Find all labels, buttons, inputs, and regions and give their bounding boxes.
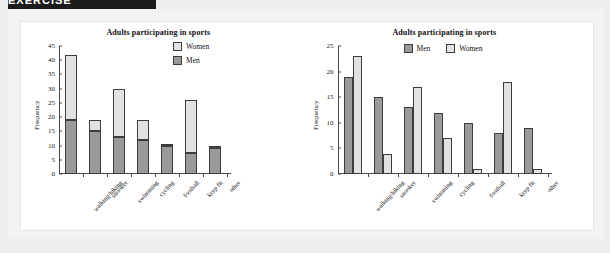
- bar-segment-women[interactable]: [185, 100, 197, 153]
- page-root: EXERCISE Adults participating in sports …: [0, 0, 610, 253]
- y-tick-label: 10: [327, 119, 338, 127]
- bar-women[interactable]: [473, 169, 482, 174]
- bar-segment-men[interactable]: [209, 148, 221, 174]
- bar-men[interactable]: [434, 113, 443, 174]
- y-tick-label: 0: [330, 170, 338, 178]
- x-tick-mark: [488, 174, 489, 177]
- x-tick-label: other: [227, 179, 241, 194]
- bar-segment-women[interactable]: [65, 55, 77, 120]
- legend-label: Women: [186, 42, 209, 51]
- x-tick-mark: [131, 174, 132, 177]
- charts-container: Adults participating in sports Frequency…: [20, 21, 594, 231]
- y-tick-label: 0: [52, 170, 60, 178]
- legend-right: MenWomen: [404, 44, 483, 53]
- y-tick-mark: [338, 174, 341, 175]
- bar-stacked[interactable]: [65, 55, 77, 174]
- legend-swatch-women: [446, 44, 455, 53]
- y-tick-mark: [59, 145, 62, 146]
- legend-swatch-men: [404, 44, 413, 53]
- chart-grouped: Adults participating in sports Frequency…: [296, 22, 593, 230]
- y-tick-label: 40: [48, 56, 59, 64]
- bar-women[interactable]: [443, 138, 452, 174]
- section-banner: EXERCISE: [8, 0, 156, 9]
- x-tick-label: keep fit: [517, 179, 536, 198]
- y-tick-mark: [338, 148, 341, 149]
- x-tick-label: cycling: [457, 179, 475, 198]
- y-tick-mark: [59, 74, 62, 75]
- bar-segment-men[interactable]: [113, 137, 125, 174]
- y-tick-mark: [59, 88, 62, 89]
- y-tick-label: 25: [327, 42, 338, 50]
- y-tick-mark: [59, 46, 62, 47]
- bar-segment-men[interactable]: [137, 140, 149, 174]
- bar-men[interactable]: [464, 123, 473, 174]
- x-tick-label: swimming: [429, 179, 453, 204]
- y-tick-label: 10: [48, 142, 59, 150]
- bar-men[interactable]: [524, 128, 533, 174]
- x-tick-mark: [179, 174, 180, 177]
- y-tick-mark: [59, 60, 62, 61]
- y-tick-label: 20: [327, 68, 338, 76]
- chart-title-right: Adults participating in sports: [296, 28, 593, 37]
- x-tick-label: football: [487, 179, 506, 199]
- y-axis-label-right: Frequency: [312, 100, 320, 130]
- x-tick-mark: [458, 174, 459, 177]
- bar-men[interactable]: [494, 133, 503, 174]
- bar-segment-women[interactable]: [113, 89, 125, 137]
- y-tick-label: 30: [48, 85, 59, 93]
- bar-segment-men[interactable]: [161, 146, 173, 174]
- x-tick-label: other: [545, 179, 559, 194]
- legend-item-men[interactable]: Men: [404, 44, 431, 53]
- bar-stacked[interactable]: [137, 120, 149, 174]
- x-tick-mark: [428, 174, 429, 177]
- bar-men[interactable]: [344, 77, 353, 174]
- bar-segment-men[interactable]: [65, 120, 77, 174]
- legend-swatch-men: [173, 56, 182, 65]
- bar-women[interactable]: [353, 56, 362, 174]
- y-tick-mark: [338, 97, 341, 98]
- bar-men[interactable]: [374, 97, 383, 174]
- bar-women[interactable]: [503, 82, 512, 174]
- x-tick-mark: [203, 174, 204, 177]
- chart-title-left: Adults participating in sports: [21, 28, 296, 37]
- legend-item-women[interactable]: Women: [173, 42, 209, 51]
- x-tick-mark: [368, 174, 369, 177]
- plot-area-right: 0510152025walking/hikingsnookerswimmingc…: [338, 46, 548, 174]
- bar-stacked[interactable]: [89, 120, 101, 174]
- banner-label: EXERCISE: [8, 0, 156, 5]
- bar-stacked[interactable]: [161, 144, 173, 174]
- x-tick-mark: [548, 174, 549, 177]
- bar-stacked[interactable]: [185, 100, 197, 174]
- x-tick-mark: [227, 174, 228, 177]
- legend-item-men[interactable]: Men: [173, 56, 209, 65]
- bar-segment-women[interactable]: [89, 120, 101, 131]
- bar-men[interactable]: [404, 107, 413, 174]
- y-tick-label: 15: [48, 127, 59, 135]
- x-tick-mark: [83, 174, 84, 177]
- y-tick-label: 5: [330, 144, 338, 152]
- y-tick-label: 45: [48, 42, 59, 50]
- bar-stacked[interactable]: [209, 146, 221, 174]
- bar-women[interactable]: [413, 87, 422, 174]
- legend-item-women[interactable]: Women: [446, 44, 482, 53]
- bar-women[interactable]: [383, 154, 392, 174]
- legend-label: Women: [459, 44, 482, 53]
- bar-segment-men[interactable]: [185, 153, 197, 174]
- y-tick-label: 5: [52, 156, 60, 164]
- legend-label: Men: [417, 44, 431, 53]
- y-tick-label: 15: [327, 93, 338, 101]
- x-tick-label: keep fit: [205, 179, 224, 198]
- y-axis-left: [59, 46, 60, 174]
- x-tick-label: football: [181, 179, 200, 199]
- x-tick-label: cycling: [157, 179, 175, 198]
- legend-label: Men: [186, 56, 200, 65]
- bar-women[interactable]: [533, 169, 542, 174]
- bar-segment-women[interactable]: [137, 120, 149, 140]
- bar-stacked[interactable]: [113, 89, 125, 174]
- y-axis-right: [338, 46, 339, 174]
- x-tick-mark: [155, 174, 156, 177]
- bar-segment-men[interactable]: [89, 131, 101, 174]
- y-tick-label: 35: [48, 70, 59, 78]
- x-tick-mark: [398, 174, 399, 177]
- y-tick-mark: [338, 71, 341, 72]
